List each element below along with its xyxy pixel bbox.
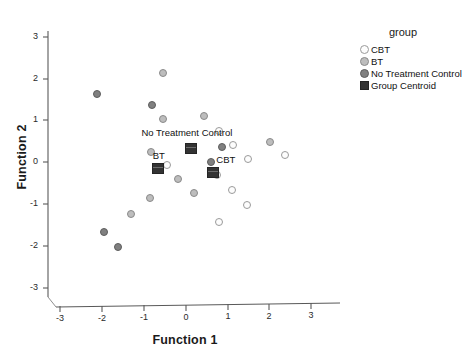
data-point-bt [127,210,135,218]
legend-title: group [357,26,449,38]
centroid-label: No Treatment Control [141,127,232,138]
group-centroid-marker [152,163,164,174]
legend-item[interactable]: Group Centroid [355,79,466,91]
legend: group CBTBTNo Treatment ControlGroup Cen… [355,26,466,91]
group-centroid-marker [207,167,219,178]
data-point-bt [159,115,167,123]
data-point-bt [200,112,208,120]
data-point-cbt [229,141,237,149]
data-point-ntc [148,101,156,109]
data-point-cbt [244,155,252,163]
group-centroid-marker [185,143,197,154]
legend-item-label: CBT [371,44,390,55]
data-point-ntc [207,158,215,166]
data-point-cbt [243,201,251,209]
dark-square-icon [360,81,369,90]
data-point-cbt [228,186,236,194]
discriminant-scatter-plot: 3 2 1 0 -1 -2 -3 -3 -2 -1 0 1 2 3 Functi… [0,0,466,358]
data-point-cbt [163,161,171,169]
data-point-bt [159,69,167,77]
data-point-cbt [215,218,223,226]
data-point-bt [174,175,182,183]
gray-circle-icon [360,69,369,78]
legend-item-label: Group Centroid [371,80,436,91]
data-point-ntc [218,143,226,151]
legend-item[interactable]: No Treatment Control [355,67,466,79]
data-point-ntc [93,90,101,98]
open-circle-icon [360,45,369,54]
legend-item-label: No Treatment Control [371,68,462,79]
legend-item-label: BT [371,56,383,67]
centroid-label: CBT [216,154,235,165]
light-gray-circle-icon [360,57,369,66]
legend-item[interactable]: CBT [355,43,466,55]
data-point-bt [266,138,274,146]
data-point-ntc [100,228,108,236]
legend-rows: CBTBTNo Treatment ControlGroup Centroid [355,43,466,91]
data-point-ntc [114,243,122,251]
centroid-label: BT [153,150,165,161]
data-point-bt [190,189,198,197]
data-point-bt [146,194,154,202]
legend-item[interactable]: BT [355,55,466,67]
data-point-cbt [281,151,289,159]
